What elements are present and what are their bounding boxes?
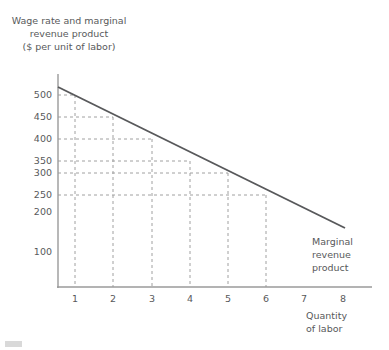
x-tick-label-3: 3: [145, 293, 159, 304]
y-tick-label-100: 100: [22, 246, 52, 257]
series-label-line-1: Marginal: [312, 235, 384, 248]
corner-artifact: [5, 341, 22, 347]
x-tick-label-2: 2: [106, 293, 120, 304]
x-tick-label-8: 8: [336, 293, 350, 304]
x-axis-title-line-2: of labor: [306, 322, 386, 335]
y-tick-label-450: 450: [22, 111, 52, 122]
series-label-marginal-revenue-product: Marginal revenue product: [312, 235, 384, 274]
y-tick-label-350: 350: [22, 155, 52, 166]
x-axis-title-line-1: Quantity: [306, 309, 386, 322]
x-tick-label-1: 1: [68, 293, 82, 304]
x-tick-label-4: 4: [183, 293, 197, 304]
y-tick-label-400: 400: [22, 133, 52, 144]
marginal-revenue-product-line: [58, 87, 345, 228]
guide-lines-vertical: [75, 95, 266, 287]
x-tick-label-6: 6: [259, 293, 273, 304]
x-tick-label-7: 7: [297, 293, 311, 304]
series-label-line-2: revenue: [312, 248, 384, 261]
y-tick-label-200: 200: [22, 206, 52, 217]
y-tick-label-250: 250: [22, 189, 52, 200]
guide-lines-horizontal: [58, 95, 266, 195]
x-tick-label-5: 5: [221, 293, 235, 304]
series-label-line-3: product: [312, 261, 384, 274]
chart-figure: Wage rate and marginal revenue product (…: [0, 0, 389, 350]
x-axis-title: Quantity of labor: [306, 309, 386, 335]
y-tick-label-300: 300: [22, 167, 52, 178]
y-tick-label-500: 500: [22, 89, 52, 100]
